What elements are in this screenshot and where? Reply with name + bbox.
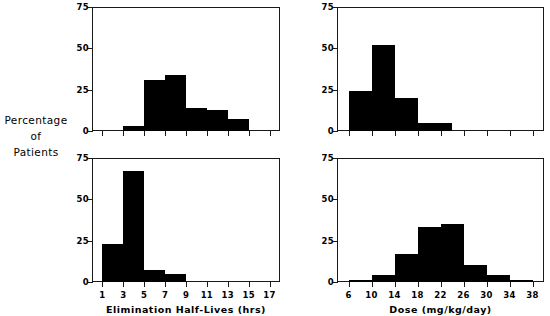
y-axis-tick-label: 50 (322, 43, 334, 53)
x-axis-tick (207, 282, 208, 287)
y-axis-tick-label: 0 (83, 126, 89, 136)
x-axis-tick (464, 131, 465, 136)
histogram-bar (418, 123, 441, 131)
plot-area (92, 158, 280, 282)
x-axis-tick (102, 282, 103, 287)
x-axis-tick-label: 3 (120, 290, 126, 300)
histogram-bar (418, 227, 441, 282)
x-axis-tick (249, 131, 250, 136)
histogram-bar (102, 244, 123, 282)
x-axis-tick (372, 282, 373, 287)
histogram-bar (144, 270, 165, 282)
histogram-bar (228, 119, 249, 131)
x-axis-tick-label: 17 (263, 290, 275, 300)
histogram-bar (395, 98, 418, 131)
y-axis-tick-label: 75 (322, 153, 334, 163)
x-axis-tick-label: 13 (222, 290, 234, 300)
x-axis-tick (165, 131, 166, 136)
y-axis-tick-label: 25 (322, 236, 334, 246)
x-axis-tick (228, 282, 229, 287)
x-axis-tick-label: 7 (162, 290, 168, 300)
x-axis-tick (144, 282, 145, 287)
y-axis-tick-label: 50 (77, 43, 89, 53)
chart-panel-top-right: 0255075 (337, 7, 544, 131)
x-axis-tick (487, 282, 488, 287)
y-axis-title-line-3: Patients (0, 144, 72, 160)
histogram-bar (165, 75, 186, 131)
x-axis-tick (270, 282, 271, 287)
x-axis-tick (123, 282, 124, 287)
x-axis-tick (165, 282, 166, 287)
x-axis-tick (144, 131, 145, 136)
x-axis-tick-label: 11 (201, 290, 213, 300)
histogram-bar (349, 280, 372, 282)
chart-panel-top-left: 0255075 (92, 7, 280, 131)
x-axis-tick (270, 131, 271, 136)
histogram-bar (487, 275, 510, 282)
x-axis-tick (441, 282, 442, 287)
x-axis-tick-label: 30 (480, 290, 492, 300)
y-axis-tick-label: 25 (77, 85, 89, 95)
y-axis-tick-label: 75 (77, 2, 89, 12)
x-axis-tick-label: 9 (183, 290, 189, 300)
x-axis-tick-label: 38 (526, 290, 538, 300)
y-axis-title-line-1: Percentage (0, 112, 72, 128)
y-axis-tick-label: 25 (322, 85, 334, 95)
x-axis-tick-label: 1 (99, 290, 105, 300)
x-axis-tick (228, 131, 229, 136)
y-axis-tick-label: 75 (77, 153, 89, 163)
x-axis-tick (510, 131, 511, 136)
x-axis-tick (395, 131, 396, 136)
x-axis-tick (123, 131, 124, 136)
x-axis-tick (510, 282, 511, 287)
histogram-bar (123, 126, 144, 131)
y-axis-tick-label: 0 (328, 126, 334, 136)
x-axis-tick-label: 15 (242, 290, 254, 300)
plot-area (337, 7, 544, 131)
y-axis-tick-label: 50 (77, 194, 89, 204)
histogram-bar (464, 265, 487, 282)
x-axis-tick (207, 131, 208, 136)
x-axis-title: Dose (mg/kg/day) (337, 304, 544, 315)
plot-area (92, 7, 280, 131)
figure-canvas: Percentage of Patients 0255075 0255075 0… (0, 0, 550, 316)
y-axis-tick-label: 75 (322, 2, 334, 12)
histogram-bar (395, 254, 418, 282)
x-axis-tick (533, 131, 534, 136)
chart-panel-bottom-right: 025507561014182226303438Dose (mg/kg/day) (337, 158, 544, 282)
x-axis-tick (441, 131, 442, 136)
x-axis-tick (464, 282, 465, 287)
histogram-bar (510, 280, 533, 282)
y-axis-tick-label: 0 (83, 277, 89, 287)
histogram-bar (165, 274, 186, 282)
histogram-bar (123, 171, 144, 282)
x-axis-tick-label: 18 (411, 290, 423, 300)
x-axis-tick (186, 131, 187, 136)
x-axis-tick (487, 131, 488, 136)
histogram-bar (372, 45, 395, 131)
chart-panel-bottom-left: 02550751357911131517Elimination Half-Liv… (92, 158, 280, 282)
histogram-bar (144, 80, 165, 131)
x-axis-tick (349, 131, 350, 136)
x-axis-tick-label: 10 (365, 290, 377, 300)
x-axis-tick-label: 26 (457, 290, 469, 300)
histogram-bar (349, 91, 372, 131)
x-axis-tick-label: 34 (503, 290, 515, 300)
x-axis-tick (186, 282, 187, 287)
x-axis-tick-label: 6 (345, 290, 351, 300)
x-axis-tick (102, 131, 103, 136)
x-axis-tick-label: 14 (388, 290, 400, 300)
plot-area (337, 158, 544, 282)
x-axis-tick (395, 282, 396, 287)
x-axis-tick (418, 282, 419, 287)
histogram-bar (186, 108, 207, 131)
x-axis-tick (349, 282, 350, 287)
x-axis-tick (372, 131, 373, 136)
y-axis-title: Percentage of Patients (0, 112, 72, 160)
y-axis-tick-label: 0 (328, 277, 334, 287)
histogram-bar (441, 123, 453, 131)
histogram-bar (441, 224, 464, 282)
x-axis-tick-label: 22 (434, 290, 446, 300)
x-axis-title: Elimination Half-Lives (hrs) (92, 304, 280, 315)
histogram-bar (372, 275, 395, 282)
